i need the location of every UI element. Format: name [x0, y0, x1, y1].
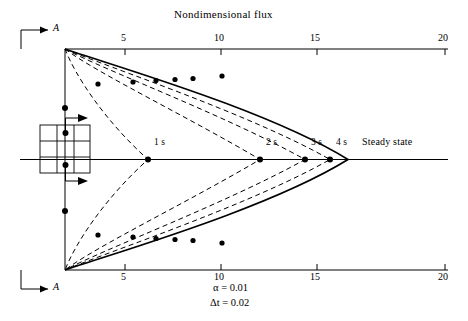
- top-tick-label-15: 15: [310, 33, 320, 43]
- top-tick-label-20: 20: [438, 33, 448, 43]
- inset-flux-arrow-lower: [66, 165, 89, 185]
- axis-symbol-bottom: A: [53, 282, 59, 292]
- bottom-tick-label-15: 15: [310, 272, 320, 282]
- top-axis: [65, 49, 448, 55]
- top-tick-label-10: 10: [214, 33, 224, 43]
- axis-symbol-top: A: [53, 23, 59, 33]
- axis-arrow-top: [21, 27, 48, 50]
- time-label-2s: 2 s: [266, 138, 277, 148]
- time-label-4s: 4 s: [336, 138, 347, 148]
- bottom-tick-label-5: 5: [121, 272, 126, 282]
- inset-flux-arrow-upper: [66, 114, 89, 133]
- bottom-tick-label-20: 20: [438, 272, 448, 282]
- chart-title: Nondimensional flux: [174, 9, 273, 20]
- figure-nondimensional-flux: Nondimensional flux A A 5 10 15 20 5 10 …: [0, 0, 468, 321]
- steady-state-label: Steady state: [362, 137, 412, 147]
- plot-canvas: [0, 0, 468, 321]
- bottom-axis: [65, 264, 448, 270]
- bottom-tick-label-10: 10: [214, 272, 224, 282]
- time-label-3s: 3 s: [311, 138, 322, 148]
- axis-arrow-bottom: [21, 270, 48, 293]
- top-tick-label-5: 5: [121, 33, 126, 43]
- time-label-1s: 1 s: [154, 138, 165, 148]
- parameter-delta-t: Δt = 0.02: [210, 298, 249, 309]
- parameter-alpha: α = 0.01: [213, 283, 248, 294]
